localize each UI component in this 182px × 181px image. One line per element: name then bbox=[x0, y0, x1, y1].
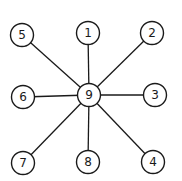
node-9: 9 bbox=[78, 84, 101, 107]
node-4: 4 bbox=[142, 151, 165, 174]
node-6: 6 bbox=[12, 86, 35, 109]
node-label: 1 bbox=[84, 26, 92, 40]
star-graph-diagram: 123456789 bbox=[0, 0, 182, 181]
node-3: 3 bbox=[144, 84, 167, 107]
node-8: 8 bbox=[77, 151, 100, 174]
edge-9-4 bbox=[89, 95, 153, 162]
node-label: 4 bbox=[149, 155, 157, 169]
node-label: 3 bbox=[151, 88, 159, 102]
node-1: 1 bbox=[77, 22, 100, 45]
node-7: 7 bbox=[12, 152, 35, 175]
node-5: 5 bbox=[11, 24, 34, 47]
edge-9-2 bbox=[89, 33, 152, 95]
node-label: 6 bbox=[19, 90, 27, 104]
edge-9-7 bbox=[23, 95, 89, 163]
node-label: 5 bbox=[18, 28, 26, 42]
node-label: 9 bbox=[85, 88, 93, 102]
node-label: 7 bbox=[19, 156, 27, 170]
node-label: 2 bbox=[148, 26, 156, 40]
node-label: 8 bbox=[84, 155, 92, 169]
node-2: 2 bbox=[141, 22, 164, 45]
edge-9-5 bbox=[22, 35, 89, 95]
